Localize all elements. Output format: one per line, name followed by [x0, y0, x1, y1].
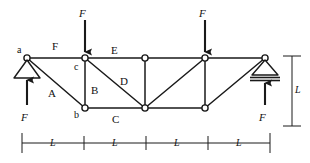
truss-svg-canvas: [0, 0, 310, 163]
pin-support-triangle: [14, 60, 40, 78]
truss-joints: [24, 55, 268, 111]
applied-load-label-c: F: [79, 8, 86, 19]
support-right-roller: [250, 60, 280, 81]
member-label-D: D: [120, 76, 128, 87]
dimension-label-L-4: L: [236, 138, 242, 148]
member-label-E: E: [111, 45, 118, 56]
applied-load-label-right: F: [199, 8, 206, 19]
horizontal-dimension-line: [22, 133, 270, 153]
vertical-dimension-label-L: L: [295, 85, 301, 95]
joint-b: [82, 105, 88, 111]
member-diagonal-4: [205, 58, 265, 108]
joint-bottom-2: [142, 105, 148, 111]
reaction-label-right: F: [259, 112, 266, 123]
dimension-label-L-1: L: [50, 138, 56, 148]
joint-c: [82, 55, 88, 61]
node-label-c: c: [74, 62, 78, 72]
joint-bottom-3: [202, 105, 208, 111]
force-arrows: [27, 20, 265, 105]
dimension-label-L-3: L: [174, 138, 180, 148]
joint-top-3: [142, 55, 148, 61]
support-left-pin: [14, 60, 40, 78]
member-label-A: A: [48, 88, 56, 99]
roller-support-triangle: [252, 60, 278, 75]
member-label-B: B: [91, 85, 98, 96]
node-label-b: b: [74, 110, 79, 120]
member-diagonal-D: [85, 58, 145, 108]
member-diagonal-3: [145, 58, 205, 108]
member-label-F: F: [52, 41, 58, 52]
member-label-C: C: [112, 114, 119, 125]
joint-top-4: [202, 55, 208, 61]
reaction-label-left: F: [21, 112, 28, 123]
node-label-a: a: [17, 45, 21, 55]
truss-members: [27, 58, 265, 108]
dimension-label-L-2: L: [112, 138, 118, 148]
truss-diagram-figure: a c b F E A B D C F F F F L L L L L: [0, 0, 310, 163]
